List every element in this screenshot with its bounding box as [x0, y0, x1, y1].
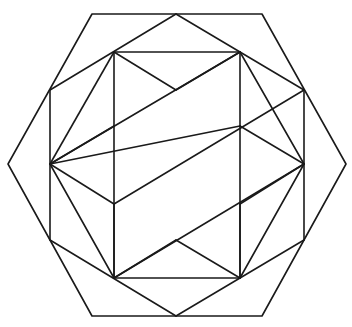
diagram-segment — [50, 164, 114, 278]
diagram-segment — [240, 52, 304, 164]
geometric-hexagon-diagram — [0, 0, 352, 327]
diagram-segment — [240, 164, 304, 278]
outer-hexagon — [8, 14, 346, 316]
diagram-segment — [176, 240, 240, 278]
diagram-segment — [114, 240, 176, 278]
diagram-segment — [114, 52, 176, 90]
diagram-segment — [50, 52, 114, 164]
diagram-segment — [50, 164, 114, 204]
diagram-lines — [8, 14, 346, 316]
diagram-segment — [240, 164, 304, 204]
diagram-segment — [240, 126, 304, 164]
